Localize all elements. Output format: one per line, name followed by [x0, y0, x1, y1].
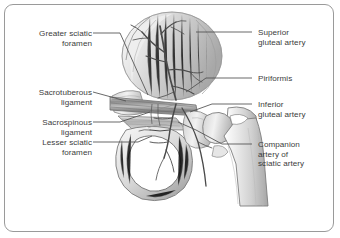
label-sacrotuberous-ligament: Sacrotuberousligament	[39, 88, 92, 107]
label-line-1: Superior	[258, 28, 289, 37]
label-line-2: ligament	[61, 98, 92, 107]
label-line-1: Sacrospinous	[42, 118, 92, 127]
label-line-2: ligament	[61, 128, 92, 137]
label-lesser-sciatic-foramen: Lesser sciaticforamen	[42, 138, 92, 157]
label-line-1: Inferior	[258, 100, 284, 109]
label-line-1: Lesser sciatic	[42, 138, 92, 147]
obturator-foramen	[116, 124, 193, 200]
label-greater-sciatic-foramen: Greater sciaticforamen	[39, 29, 92, 48]
label-superior-gluteal-artery: Superiorgluteal artery	[258, 28, 306, 47]
anatomy-figure: Greater sciaticforamen Sacrotuberousliga…	[0, 0, 340, 238]
label-sacrospinous-ligament: Sacrospinousligament	[42, 118, 92, 137]
label-line-3: sciatic artery	[258, 159, 304, 168]
label-line-2: gluteal artery	[258, 110, 306, 119]
label-line-1: Companion	[258, 140, 300, 149]
label-line-1: Sacrotuberous	[39, 88, 92, 97]
label-piriformis: Piriformis	[258, 74, 292, 84]
label-line-2: foramen	[62, 148, 92, 157]
label-line-2: artery of	[258, 150, 288, 159]
label-companion-artery-of-sciatic-artery: Companionartery ofsciatic artery	[258, 140, 304, 169]
label-line-1: Greater sciatic	[39, 29, 92, 38]
label-inferior-gluteal-artery: Inferiorgluteal artery	[258, 100, 306, 119]
label-line-2: foramen	[62, 39, 92, 48]
label-line-1: Piriformis	[258, 74, 292, 83]
label-line-2: gluteal artery	[258, 38, 306, 47]
